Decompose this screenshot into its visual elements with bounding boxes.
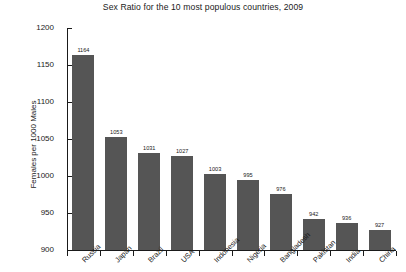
bar	[270, 194, 292, 250]
bar-value-label: 936	[332, 215, 362, 221]
x-tick-mark	[232, 251, 233, 256]
bar-value-label: 1053	[101, 129, 131, 135]
x-tick-mark	[166, 251, 167, 256]
x-tick-mark	[100, 251, 101, 256]
y-tick-mark	[68, 213, 72, 214]
y-tick-label: 1050	[14, 134, 54, 143]
x-tick-mark	[67, 251, 68, 256]
bar	[171, 156, 193, 250]
chart-title: Sex Ratio for the 10 most populous count…	[0, 2, 406, 12]
bar	[204, 174, 226, 250]
y-tick-label: 1100	[14, 97, 54, 106]
plot-area: 90095010001050110011501200 1164105310311…	[67, 28, 396, 250]
bar-value-label: 1031	[134, 145, 164, 151]
bar-value-label: 1027	[167, 148, 197, 154]
y-tick-mark	[68, 176, 72, 177]
bar-value-label: 976	[266, 186, 296, 192]
x-tick-mark	[133, 251, 134, 256]
y-tick-label: 1200	[14, 23, 54, 32]
y-axis-label: Females per 1000 Males	[29, 65, 38, 225]
y-tick-mark	[68, 102, 72, 103]
y-tick-mark	[68, 250, 72, 251]
y-tick-label: 1150	[14, 60, 54, 69]
bar-value-label: 1003	[200, 166, 230, 172]
x-tick-mark	[363, 251, 364, 256]
bar-value-label: 942	[299, 211, 329, 217]
x-tick-mark	[396, 251, 397, 256]
y-tick-label: 1000	[14, 171, 54, 180]
bar	[237, 180, 259, 250]
y-tick-label: 900	[14, 245, 54, 254]
bar-value-label: 1164	[68, 47, 98, 53]
y-tick-label: 950	[14, 208, 54, 217]
bar	[72, 55, 94, 250]
bar	[138, 153, 160, 250]
x-tick-mark	[199, 251, 200, 256]
x-tick-mark	[330, 251, 331, 256]
bar-chart: Sex Ratio for the 10 most populous count…	[0, 0, 406, 272]
y-axis-cap-tick	[68, 28, 72, 29]
y-tick-mark	[68, 65, 72, 66]
bar-value-label: 995	[233, 172, 263, 178]
x-tick-mark	[297, 251, 298, 256]
bar	[105, 137, 127, 250]
x-tick-mark	[264, 251, 265, 256]
y-tick-mark	[68, 139, 72, 140]
bar-value-label: 927	[365, 222, 395, 228]
